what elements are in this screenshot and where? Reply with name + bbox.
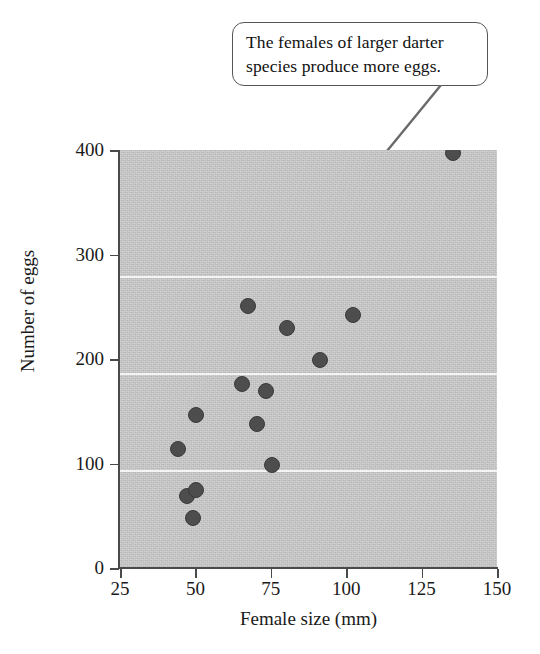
x-axis-tick xyxy=(422,569,424,578)
y-axis-tick xyxy=(110,150,119,152)
y-axis-tick xyxy=(110,359,119,361)
y-axis-tick-label: 300 xyxy=(42,244,104,266)
gridline-300 xyxy=(120,276,497,278)
data-point xyxy=(312,352,328,368)
data-point xyxy=(264,457,280,473)
gridline-100 xyxy=(120,470,497,472)
x-axis-tick-label: 100 xyxy=(316,578,376,600)
data-point xyxy=(279,320,295,336)
x-axis-tick xyxy=(271,569,273,578)
data-point xyxy=(240,298,256,314)
y-axis-tick-label: 400 xyxy=(42,139,104,161)
data-point xyxy=(234,376,250,392)
gridline-200 xyxy=(120,373,497,375)
y-axis-tick-label: 100 xyxy=(42,453,104,475)
x-axis-tick-label: 75 xyxy=(241,578,301,600)
x-axis-tick-label: 125 xyxy=(392,578,452,600)
plot-area xyxy=(120,150,497,568)
y-axis-tick xyxy=(110,464,119,466)
y-axis-tick xyxy=(110,255,119,257)
annotation-callout: The females of larger darter species pro… xyxy=(232,22,488,86)
scatter-plot-figure: The females of larger darter species pro… xyxy=(0,0,540,654)
annotation-callout-line-2: species produce more eggs. xyxy=(246,54,475,78)
y-axis-tick-label: 200 xyxy=(42,348,104,370)
x-axis-tick xyxy=(195,569,197,578)
x-axis-tick-label: 25 xyxy=(90,578,150,600)
data-point xyxy=(188,482,204,498)
x-axis-tick xyxy=(497,569,499,578)
annotation-leader-line xyxy=(383,85,443,153)
x-axis-title: Female size (mm) xyxy=(120,608,497,630)
data-point xyxy=(249,416,265,432)
y-axis-title: Number of eggs xyxy=(17,201,39,421)
annotation-callout-line-1: The females of larger darter xyxy=(246,30,475,54)
plot-background-texture xyxy=(120,150,497,568)
x-axis-tick-label: 150 xyxy=(467,578,527,600)
data-point xyxy=(170,441,186,457)
x-axis-tick-label: 50 xyxy=(165,578,225,600)
x-axis-line xyxy=(118,567,498,569)
x-axis-tick xyxy=(120,569,122,578)
y-axis-tick xyxy=(110,568,119,570)
y-axis-tick-label: 0 xyxy=(42,557,104,579)
x-axis-tick xyxy=(346,569,348,578)
y-axis-tick-labels: 0100200300400 xyxy=(32,0,104,654)
data-point xyxy=(258,383,274,399)
